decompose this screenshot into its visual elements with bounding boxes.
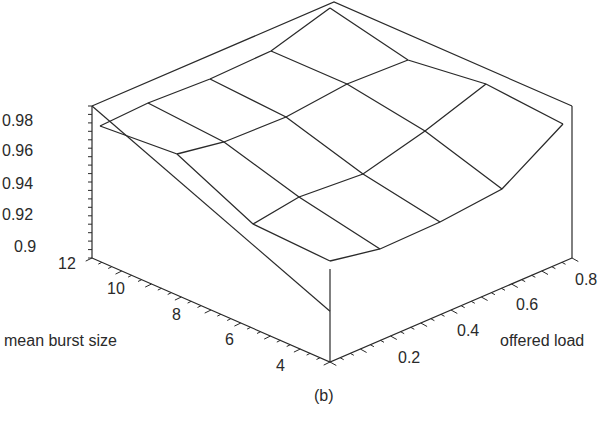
- burst-tick-label: 12: [58, 255, 76, 273]
- z-tick-label: 0.98: [2, 112, 33, 130]
- load-axis-title: offered load: [500, 332, 584, 350]
- load-tick-label: 0.4: [457, 322, 479, 340]
- z-tick-label: 0.94: [2, 175, 33, 193]
- burst-tick-label: 8: [172, 306, 181, 324]
- bounding-box: [92, 2, 572, 362]
- load-tick-label: 0.8: [575, 271, 597, 289]
- burst-tick-label: 6: [225, 331, 234, 349]
- burst-tick-label: 10: [107, 280, 125, 298]
- burst-tick-label: 4: [276, 357, 285, 375]
- surface-plot: [0, 0, 612, 425]
- z-tick-label: 0.9: [14, 238, 36, 256]
- figure-caption: (b): [314, 387, 334, 405]
- z-tick-label: 0.96: [2, 142, 33, 160]
- z-tick-label: 0.92: [2, 206, 33, 224]
- axis-ticks: [86, 106, 579, 366]
- load-tick-label: 0.2: [398, 349, 420, 367]
- burst-axis-title: mean burst size: [4, 332, 117, 350]
- surface-mesh: [100, 8, 563, 261]
- load-tick-label: 0.6: [516, 296, 538, 314]
